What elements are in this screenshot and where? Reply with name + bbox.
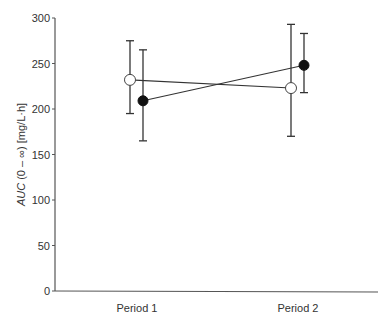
x-tick-label: Period 1: [117, 302, 158, 314]
axes: 050100150200250300Period 1Period 2AUC (0…: [15, 12, 378, 314]
y-tick-label: 250: [32, 58, 50, 70]
y-axis-title: AUC (0 – ∞) [mg/L·h]: [15, 103, 27, 207]
filled-circle-marker: [138, 96, 148, 106]
open-circle-marker: [125, 74, 136, 85]
series-line: [130, 80, 291, 88]
y-tick-label: 100: [32, 194, 50, 206]
y-tick-label: 200: [32, 103, 50, 115]
series-open-circle: [125, 24, 297, 136]
y-tick-label: 0: [44, 285, 50, 297]
series-line: [143, 65, 304, 100]
filled-circle-marker: [299, 60, 309, 70]
x-axis-line: [55, 291, 378, 292]
y-tick-label: 300: [32, 12, 50, 24]
open-circle-marker: [286, 83, 297, 94]
x-tick-label: Period 2: [278, 302, 319, 314]
y-tick-label: 150: [32, 149, 50, 161]
series-layer: [125, 24, 310, 140]
chart: 050100150200250300Period 1Period 2AUC (0…: [0, 0, 392, 318]
y-tick-label: 50: [38, 240, 50, 252]
